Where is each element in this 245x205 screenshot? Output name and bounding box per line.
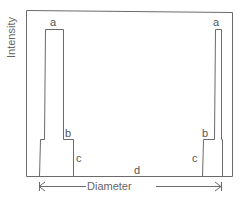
label-b-left: b [65,127,71,139]
right-peak [203,30,223,177]
label-a-right: a [213,16,220,28]
label-c-right: c [192,152,198,164]
plot-frame [27,11,233,177]
label-d-baseline: d [134,164,140,176]
x-axis-label: Diameter [87,180,132,192]
intensity-profile-diagram: Intensity a a b b c c d Diameter [0,0,245,205]
y-axis-label: Intensity [5,17,17,58]
label-a-left: a [50,16,57,28]
label-b-right: b [202,127,208,139]
left-peak [40,30,74,177]
label-c-left: c [76,152,82,164]
